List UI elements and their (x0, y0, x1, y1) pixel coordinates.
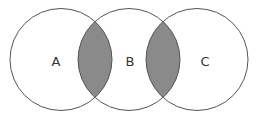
label-a: A (52, 54, 61, 69)
venn-diagram: A B C (0, 0, 265, 124)
label-b: B (126, 54, 135, 69)
label-c: C (200, 54, 209, 69)
